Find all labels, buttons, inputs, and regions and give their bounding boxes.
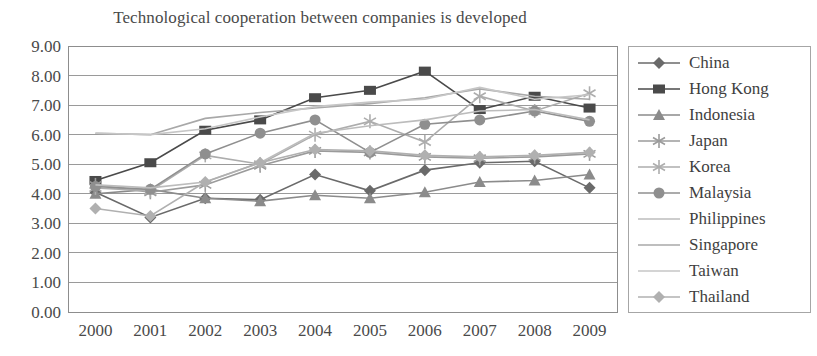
data-point-marker [255,128,266,139]
legend-label: Thailand [689,288,749,306]
legend-item-malaysia[interactable]: Malaysia [629,180,810,206]
y-axis-tick-label: 3.00 [31,214,61,233]
legend-item-taiwan[interactable]: Taiwan [629,258,810,284]
data-point-marker [90,181,101,192]
legend-item-korea[interactable]: Korea [629,154,810,180]
data-point-marker [474,89,486,103]
legend-swatch-none-icon [636,209,682,229]
data-point-marker [653,57,665,69]
y-axis-tick-labels: 0.001.002.003.004.005.006.007.008.009.00 [31,37,61,322]
legend-label: Philippines [689,210,766,228]
legend-swatch-none-icon [636,235,682,255]
data-point-marker [653,85,665,94]
data-point-marker [584,104,596,113]
x-axis-tick-label: 2005 [353,321,387,340]
y-axis-tick-label: 6.00 [31,126,61,145]
legend-item-china[interactable]: China [629,50,810,76]
x-axis-tick-label: 2003 [243,321,277,340]
legend-item-philippines[interactable]: Philippines [629,206,810,232]
legend-label: Taiwan [689,262,739,280]
data-point-marker [309,169,321,181]
legend-item-hong-kong[interactable]: Hong Kong [629,76,810,102]
data-point-marker [89,203,101,215]
y-axis-tick-label: 5.00 [31,155,61,174]
y-axis-tick-label: 7.00 [31,96,61,115]
data-point-marker [419,135,431,149]
legend-item-japan[interactable]: Japan [629,128,810,154]
chart-container: Technological cooperation between compan… [0,0,817,356]
y-axis-tick-label: 8.00 [31,67,61,86]
data-point-marker [310,114,321,125]
legend-swatch-triangle-icon [636,105,682,125]
x-axis-tick-label: 2007 [463,321,498,340]
data-point-marker [654,188,665,199]
legend-label: Singapore [689,236,758,254]
legend-label: Korea [689,158,731,176]
data-point-marker [419,164,431,176]
data-point-marker [584,182,596,194]
x-axis-tick-label: 2009 [573,321,607,340]
y-axis-tick-label: 0.00 [31,303,61,322]
legend-item-singapore[interactable]: Singapore [629,232,810,258]
x-axis-tick-label: 2008 [518,321,552,340]
data-point-marker [144,158,156,167]
data-point-marker [364,86,376,95]
x-axis-tick-labels: 2000200120022003200420052006200720082009 [78,321,606,340]
series-indonesia [89,169,595,207]
y-axis-tick-label: 1.00 [31,273,61,292]
legend-swatch-asterisk-icon [636,157,682,177]
legend-label: Hong Kong [689,80,769,98]
legend-item-thailand[interactable]: Thailand [629,284,810,310]
data-series-group [89,67,595,224]
data-point-marker [144,210,156,222]
data-point-marker [419,67,431,76]
legend-item-indonesia[interactable]: Indonesia [629,102,810,128]
series-china [89,155,595,223]
chart-legend: ChinaHong KongIndonesiaJapanKoreaMalaysi… [628,46,811,313]
data-point-marker [474,105,486,114]
legend-swatch-square-icon [636,79,682,99]
data-point-marker [145,184,156,195]
y-axis-tick-label: 9.00 [31,37,61,56]
legend-swatch-diamond-icon [636,287,682,307]
x-axis-tick-label: 2002 [188,321,222,340]
data-point-marker [200,148,211,159]
data-point-marker [584,169,596,180]
data-point-marker [584,116,595,127]
y-axis-tick-label: 2.00 [31,244,61,263]
legend-swatch-star-icon [636,131,682,151]
legend-label: China [689,54,730,72]
y-axis-tick-label: 4.00 [31,185,61,204]
x-axis-tick-label: 2000 [78,321,112,340]
data-point-marker [309,93,321,102]
legend-label: Indonesia [689,106,755,124]
legend-label: Japan [689,132,728,150]
x-axis-tick-label: 2004 [298,321,333,340]
series-hong-kong [89,67,595,185]
legend-swatch-circle-icon [636,183,682,203]
x-axis-tick-label: 2006 [408,321,442,340]
data-point-marker [474,114,485,125]
x-axis-tick-label: 2001 [133,321,167,340]
legend-swatch-none-icon [636,261,682,281]
legend-swatch-diamond-icon [636,53,682,73]
data-point-marker [653,291,665,303]
legend-label: Malaysia [689,184,751,202]
series-japan [89,144,595,199]
